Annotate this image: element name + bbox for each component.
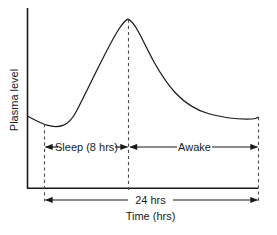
data-curve-group xyxy=(28,19,259,126)
plasma-level-curve xyxy=(28,19,259,126)
y-axis-title: Plasma level xyxy=(8,69,20,131)
sleep-span-label: Sleep (8 hrs) xyxy=(55,141,118,153)
cycle-span-label: 24 hrs xyxy=(135,194,166,206)
awake-span-annotation: Awake xyxy=(130,141,258,153)
axis-group xyxy=(27,8,258,189)
x-axis-title: Time (hrs) xyxy=(126,210,176,222)
sleep-span-annotation: Sleep (8 hrs) xyxy=(46,141,128,153)
awake-span-label: Awake xyxy=(178,141,211,153)
plasma-level-chart: Sleep (8 hrs) Awake 24 hrs Time (hrs) Pl… xyxy=(0,0,277,235)
chart-canvas: Sleep (8 hrs) Awake 24 hrs Time (hrs) Pl… xyxy=(0,0,277,235)
cycle-span-annotation: 24 hrs xyxy=(46,194,258,206)
